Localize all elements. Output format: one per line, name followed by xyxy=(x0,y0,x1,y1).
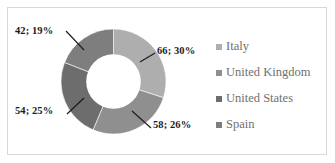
data-label-italy: 66; 30% xyxy=(157,45,195,56)
legend-swatch-icon xyxy=(216,44,222,50)
legend-item-italy[interactable]: Italy xyxy=(216,36,328,57)
data-label-united-states: 54; 25% xyxy=(15,105,53,116)
data-label-united-kingdom: 58; 26% xyxy=(153,119,191,130)
leader-line-italy xyxy=(140,53,155,62)
legend-item-spain[interactable]: Spain xyxy=(216,114,328,135)
legend-swatch-icon xyxy=(216,122,222,128)
legend-label: Italy xyxy=(226,40,249,53)
legend-swatch-icon xyxy=(216,96,222,102)
legend-swatch-icon xyxy=(216,70,222,76)
leader-line-spain xyxy=(66,31,84,50)
legend-item-united-kingdom[interactable]: United Kingdom xyxy=(216,62,328,83)
leader-line-united-kingdom xyxy=(132,111,151,128)
legend-label: United States xyxy=(226,92,293,105)
leader-line-united-states xyxy=(67,98,84,114)
chart-legend: Italy United Kingdom United States Spain xyxy=(216,36,328,140)
data-label-spain: 42; 19% xyxy=(15,25,53,36)
legend-item-united-states[interactable]: United States xyxy=(216,88,328,109)
legend-label: United Kingdom xyxy=(226,66,310,79)
chart-image: 42; 19% 66; 30% 54; 25% 58; 26% Italy Un… xyxy=(0,0,335,163)
legend-label: Spain xyxy=(226,118,254,131)
